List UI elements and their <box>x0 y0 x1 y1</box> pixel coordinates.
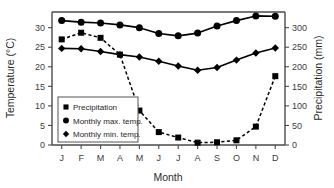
x-tick-label: S <box>214 153 220 163</box>
x-tick-label: M <box>97 153 105 163</box>
right-tick-label: 300 <box>292 23 307 33</box>
left-tick-label: 0 <box>40 140 45 150</box>
data-point-square <box>175 135 181 141</box>
data-point-square <box>253 124 259 130</box>
data-point-circle <box>58 17 65 24</box>
x-tick-label: M <box>136 153 144 163</box>
data-point-square <box>214 139 220 145</box>
x-tick-label: N <box>253 153 260 163</box>
left-tick-label: 10 <box>35 101 45 111</box>
climograph-svg: 051015202530 050100150200250300 JFMAMJJA… <box>0 0 334 188</box>
data-point-circle <box>155 30 162 37</box>
y-axis-title: Temperature (°C) <box>4 38 16 119</box>
x-tick-label: A <box>195 153 201 163</box>
data-point-circle <box>175 32 182 39</box>
left-tick-label: 30 <box>35 23 45 33</box>
x-tick-label: F <box>78 153 84 163</box>
data-point-circle <box>116 21 123 28</box>
x-axis-title: Month <box>153 171 182 183</box>
figure-background <box>0 0 334 188</box>
legend-label: Monthly min. temp. <box>73 130 141 139</box>
right-tick-label: 250 <box>292 42 307 52</box>
data-point-circle <box>136 24 143 31</box>
data-point-circle <box>63 118 69 124</box>
left-tick-label: 15 <box>35 82 45 92</box>
legend-label: Precipitation <box>73 103 117 112</box>
left-tick-label: 20 <box>35 62 45 72</box>
right-tick-label: 0 <box>292 140 297 150</box>
data-point-circle <box>97 19 104 26</box>
right-tick-label: 50 <box>292 121 302 131</box>
data-point-square <box>233 137 239 143</box>
x-tick-label: A <box>117 153 123 163</box>
data-point-square <box>98 35 104 41</box>
x-tick-label: J <box>157 153 162 163</box>
chart-legend: PrecipitationMonthly max. temp.Monthly m… <box>58 97 143 142</box>
climograph-figure: 051015202530 050100150200250300 JFMAMJJA… <box>0 0 334 188</box>
right-tick-label: 100 <box>292 101 307 111</box>
data-point-circle <box>194 30 201 37</box>
data-point-square <box>156 129 162 135</box>
data-point-circle <box>272 13 279 20</box>
data-point-square <box>78 30 84 36</box>
data-point-square <box>272 73 278 79</box>
left-tick-label: 5 <box>40 121 45 131</box>
y2-axis-title: Precipitation (mm) <box>312 35 324 120</box>
data-point-square <box>195 140 201 146</box>
data-point-circle <box>233 17 240 24</box>
right-tick-label: 150 <box>292 82 307 92</box>
data-point-circle <box>78 19 85 26</box>
right-tick-label: 200 <box>292 62 307 72</box>
x-tick-label: J <box>176 153 181 163</box>
x-tick-label: D <box>272 153 279 163</box>
data-point-circle <box>214 23 221 30</box>
data-point-square <box>63 104 68 109</box>
data-point-circle <box>252 12 259 19</box>
x-tick-label: J <box>59 153 64 163</box>
left-tick-label: 25 <box>35 42 45 52</box>
data-point-square <box>59 36 65 42</box>
x-tick-label: O <box>233 153 240 163</box>
legend-label: Monthly max. temp. <box>73 117 143 126</box>
